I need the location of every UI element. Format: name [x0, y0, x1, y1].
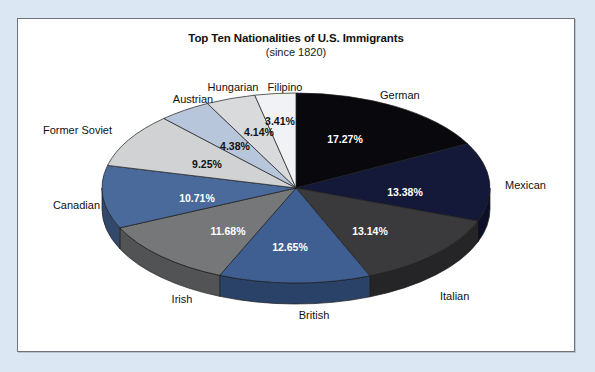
- chart-title-block: Top Ten Nationalities of U.S. Immigrants…: [18, 32, 574, 59]
- page-title: Top Ten Nationalities of U.S. Immigrants: [18, 32, 574, 46]
- chart-frame: Top Ten Nationalities of U.S. Immigrants…: [17, 18, 575, 352]
- chart-subtitle: (since 1820): [18, 46, 574, 59]
